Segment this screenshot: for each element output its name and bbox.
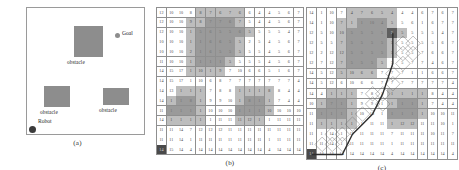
grid-cell: 6 (245, 8, 254, 17)
grid-cell: 7 (428, 99, 438, 109)
grid-cell: 14 (235, 145, 244, 154)
grid-cell: 10 (176, 28, 185, 37)
grid-cell-inflated: 1 (196, 106, 205, 115)
grid-cell-obstacle: 5 (196, 28, 205, 37)
grid-cell: 5 (397, 48, 407, 58)
grid-cell: 6 (284, 67, 293, 76)
grid-cell-obstacle: 5 (216, 28, 225, 37)
grid-cell: 14 (157, 116, 166, 125)
grid-cell: 10 (294, 106, 303, 115)
grid-cell: 4 (265, 37, 274, 46)
grid-cell: 5 (317, 38, 327, 48)
grid-cell-inflated: 12 (397, 119, 407, 129)
grid-cell: 5 (255, 28, 264, 37)
grid-cell: 11 (157, 106, 166, 115)
grid-cell: 7 (387, 129, 397, 139)
grid-cell: 12 (327, 69, 337, 79)
grid-cell-obstacle: 1 (337, 109, 347, 119)
grid-cell: 10 (274, 106, 283, 115)
grid-cell: 6 (438, 48, 448, 58)
grid-cell: 5 (255, 57, 264, 66)
grid-cell: 11 (418, 119, 428, 129)
grid-cell: 17 (176, 77, 185, 86)
grid-cell: 14 (327, 129, 337, 139)
grid-cell-inflated: 9 (186, 18, 195, 27)
grid-cell: 10 (347, 79, 357, 89)
grid-cell: 11 (407, 129, 417, 139)
grid-cell-inflated: 1 (196, 96, 205, 105)
grid-cell-inflated: 1 (206, 67, 215, 76)
grid-cell: 10 (235, 67, 244, 76)
grid-cell-obstacle: 1 (216, 57, 225, 66)
panel-b-costmap-grid: 1210108876766445671210109877675445671210… (155, 0, 305, 167)
grid-cell: 12 (157, 18, 166, 27)
grid-cell: 12 (307, 48, 317, 58)
grid-cell: 10 (216, 106, 225, 115)
grid-cell: 7 (397, 79, 407, 89)
grid-cell: 10 (357, 109, 367, 119)
grid-cell: 10 (157, 37, 166, 46)
grid-cell: 10 (428, 129, 438, 139)
grid-cell-obstacle: 6 (216, 37, 225, 46)
grid-cell-inflated: 1 (255, 86, 264, 95)
grid-cell: 6 (206, 77, 215, 86)
grid-cell: 7 (438, 79, 448, 89)
obstacle-top (74, 26, 103, 57)
grid-cell: 14 (317, 149, 327, 159)
panel-a-environment: obstacleobstacleobstacleGoalRobot (a) (0, 0, 155, 147)
grid-cell: 10 (196, 77, 205, 86)
grid-cell-inflated: 1 (186, 67, 195, 76)
grid-cell-inflated: 1 (337, 89, 347, 99)
grid-cell: 4 (294, 77, 303, 86)
grid-cell: 7 (274, 77, 283, 86)
grid-cell: 1 (317, 8, 327, 18)
grid-cell-obstacle: 5 (377, 48, 387, 58)
grid-cell: 11 (255, 126, 264, 135)
grid-cell-obstacle: 1 (186, 106, 195, 115)
grid-cell: 11 (428, 119, 438, 129)
grid-cell-inflated: 1 (255, 116, 264, 125)
grid-cell-inflated: 1 (418, 109, 428, 119)
grid-cell: 11 (255, 135, 264, 144)
grid-cell-inflated: 2 (186, 47, 195, 56)
panel-b-caption: (b) (226, 159, 235, 167)
grid-cell-inflated: 6 (216, 8, 225, 17)
grid-cell: 6 (428, 48, 438, 58)
cost-grid-b: 1210108876766445671210109877675445671210… (156, 7, 304, 155)
grid-cell: 8 (216, 77, 225, 86)
grid-cell: 14 (176, 126, 185, 135)
grid-cell-obstacle: 8 (186, 96, 195, 105)
grid-cell: 6 (284, 57, 293, 66)
grid-cell: 7 (294, 28, 303, 37)
grid-cell: 11 (284, 135, 293, 144)
grid-cell-inflated: 1 (387, 119, 397, 129)
grid-cell-obstacle: 1 (255, 106, 264, 115)
grid-cell-obstacle: 5 (357, 38, 367, 48)
grid-cell: 7 (418, 48, 428, 58)
grid-cell: 11 (235, 135, 244, 144)
grid-cell: 11 (367, 139, 377, 149)
grid-cell-inflated: 1 (347, 109, 357, 119)
grid-cell: 7 (448, 28, 458, 38)
grid-cell: 6 (438, 69, 448, 79)
grid-cell-inflated: 1 (186, 28, 195, 37)
grid-cell: 4 (438, 99, 448, 109)
grid-cell: 5 (245, 47, 254, 56)
grid-cell: 7 (448, 18, 458, 28)
grid-cell: 15 (167, 67, 176, 76)
grid-cell: 11 (367, 119, 377, 129)
grid-cell: 1 (377, 99, 387, 109)
grid-cell-inflated: 1 (196, 86, 205, 95)
grid-cell: 6 (284, 47, 293, 56)
environment-map: obstacleobstacleobstacleGoalRobot (26, 7, 145, 135)
grid-cell: 6 (245, 67, 254, 76)
grid-cell: 7 (265, 77, 274, 86)
grid-cell: 8 (274, 86, 283, 95)
grid-cell: 11 (357, 139, 367, 149)
grid-cell-obstacle: 1 (357, 18, 367, 28)
grid-cell: 4 (265, 57, 274, 66)
grid-cell: 11 (418, 139, 428, 149)
grid-cell-inflated: 7 (357, 8, 367, 18)
grid-cell: 11 (225, 135, 234, 144)
grid-cell: 1 (377, 89, 387, 99)
